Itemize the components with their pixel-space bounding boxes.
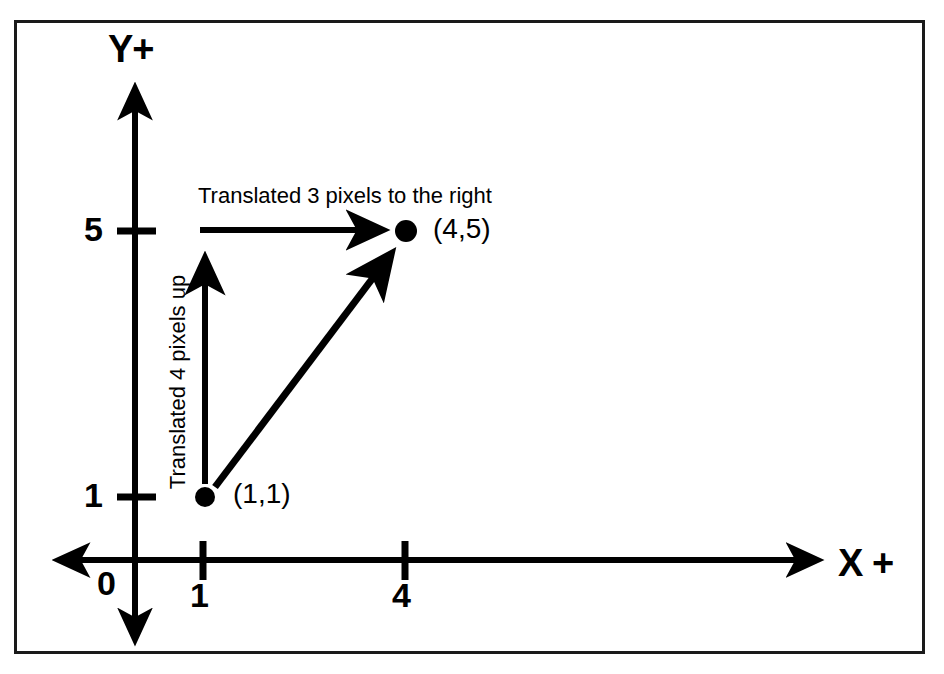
- y-axis-label: Y+: [108, 30, 154, 68]
- x-tick-label-4: 4: [392, 578, 411, 612]
- data-point-4-5: [395, 220, 417, 242]
- x-axis-label: X +: [838, 544, 893, 582]
- coordinate-diagram: [0, 0, 944, 674]
- x-tick-label-1: 1: [190, 578, 209, 612]
- annotation-horizontal-translation: Translated 3 pixels to the right: [198, 185, 492, 207]
- translation-arrow-diagonal: [215, 254, 391, 487]
- figure-page: Y+ X + 5 1 0 1 4 (1,1) (4,5) Translated …: [0, 0, 944, 674]
- point-label-translated: (4,5): [433, 215, 491, 243]
- data-point-1-1: [195, 487, 215, 507]
- y-tick-label-1: 1: [84, 478, 103, 512]
- annotation-vertical-translation: Translated 4 pixels up: [167, 275, 189, 489]
- y-tick-label-5: 5: [84, 212, 103, 246]
- point-label-original: (1,1): [233, 480, 291, 508]
- origin-label: 0: [97, 566, 116, 600]
